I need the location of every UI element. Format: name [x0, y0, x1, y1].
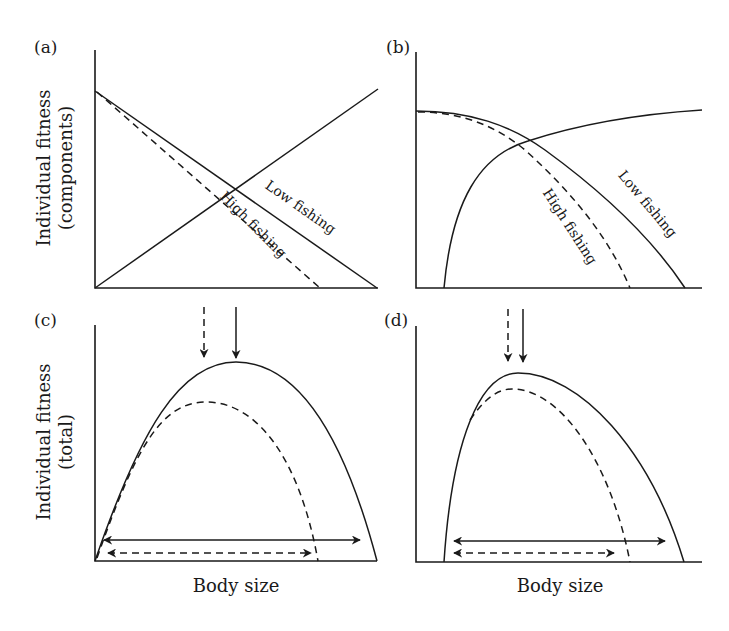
x-axis-label-left: Body size — [193, 575, 280, 596]
panel-a: (a) Low fishing High fishing — [34, 37, 378, 288]
panel-a-axes — [95, 50, 378, 288]
svg-text:(total): (total) — [55, 414, 76, 470]
panel-c-high-fishing-curve — [97, 402, 318, 561]
panel-label-d: (d) — [384, 310, 408, 330]
panel-d: (d) Body size — [384, 309, 702, 596]
panel-b: (b) Low fishing High fishing — [386, 37, 702, 288]
svg-text:Individual fitness: Individual fitness — [33, 363, 54, 520]
panel-b-high-fishing-curve — [418, 112, 630, 288]
figure-canvas: Individual fitness (components) Individu… — [0, 0, 729, 631]
panel-c: (c) Body size — [34, 307, 377, 596]
fitness-body-size-figure: Individual fitness (components) Individu… — [0, 0, 729, 631]
y-axis-label-total: Individual fitness (total) — [33, 363, 76, 520]
panel-d-low-fishing-curve — [444, 373, 684, 562]
svg-text:(components): (components) — [55, 106, 76, 231]
panel-label-b: (b) — [386, 37, 410, 57]
svg-text:Individual fitness: Individual fitness — [33, 89, 54, 246]
panel-b-low-fishing-label: Low fishing — [615, 167, 680, 240]
panel-b-high-fishing-label: High fishing — [540, 185, 601, 267]
panel-a-low-fishing-label: Low fishing — [263, 177, 340, 237]
y-axis-label-components: Individual fitness (components) — [33, 89, 76, 246]
panel-c-low-fishing-curve — [95, 362, 377, 561]
x-axis-label-right: Body size — [517, 575, 604, 596]
panel-d-axes — [416, 326, 702, 562]
panel-d-high-fishing-curve — [470, 389, 630, 562]
panel-label-c: (c) — [34, 310, 57, 330]
panel-label-a: (a) — [34, 37, 57, 57]
